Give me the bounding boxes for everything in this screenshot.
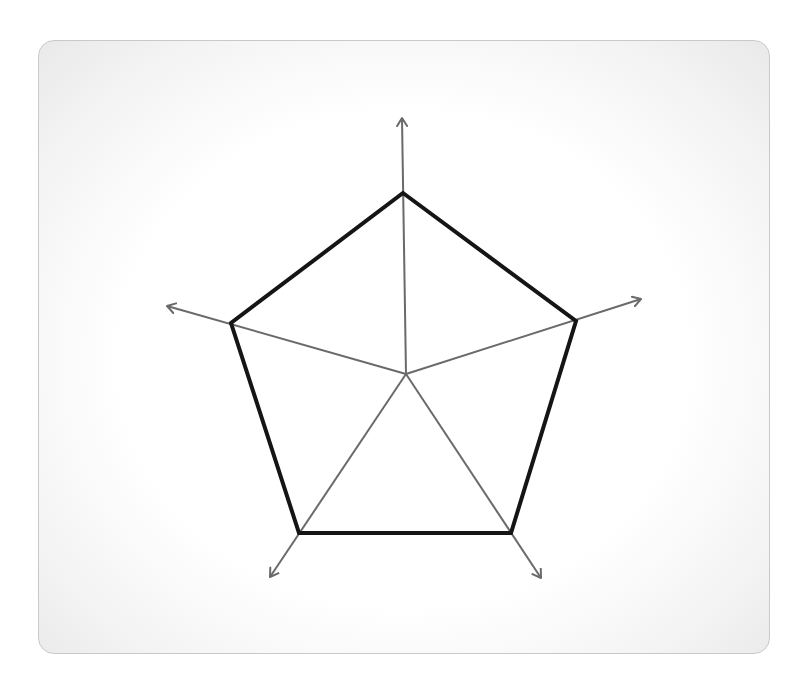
axis-bottom-right-arrow [406, 374, 541, 578]
axis-left-arrow [167, 306, 406, 374]
axis-right-arrow [406, 299, 641, 374]
radar-diagram [0, 0, 809, 682]
axis-top-arrow [402, 118, 406, 374]
axis-bottom-left-arrow [270, 374, 406, 577]
